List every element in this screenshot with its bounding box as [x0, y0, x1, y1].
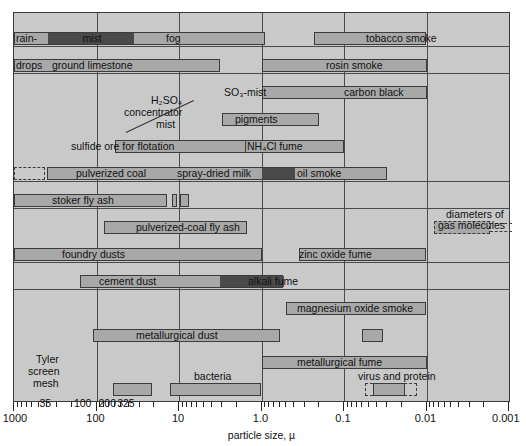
label-pulverized-coal: pulverized coal: [76, 168, 146, 179]
axis-minor-tick: [17, 402, 18, 407]
label-bacteria: bacteria: [194, 371, 231, 382]
axis-tick-0.1: [343, 402, 344, 411]
axis-minor-tick: [114, 402, 115, 407]
axis-minor-tick: [444, 402, 445, 407]
axis-tick-1: [261, 402, 262, 411]
label-foundry-dusts: foundry dusts: [62, 249, 125, 260]
label-fog: fog: [166, 33, 181, 44]
axis-minor-tick: [221, 402, 222, 407]
label-pigments: pigments: [235, 114, 278, 125]
axis-minor-tick: [196, 402, 197, 407]
label-alkali-fume: alkali fume: [248, 276, 298, 287]
axis-minor-tick: [120, 402, 121, 407]
axis-minor-tick: [458, 402, 459, 407]
label-metallurgical-dust: metallurgical dust: [136, 330, 218, 341]
axis-minor-tick: [351, 402, 352, 407]
x-axis: 1000100101.00.10.010.001 particle size, …: [13, 402, 510, 446]
rule: [14, 181, 509, 182]
axis-minor-tick: [128, 402, 129, 407]
axis-minor-tick: [46, 402, 47, 407]
axis-label-0.001: 0.001: [492, 412, 520, 424]
label-h2so4-line3: mist: [156, 119, 175, 130]
axis-minor-tick: [368, 402, 369, 407]
label-spray-dried-milk: spray-dried milk: [177, 168, 251, 179]
axis-minor-tick: [361, 402, 362, 407]
label-nh4cl-fume: NH₄Cl fume: [247, 141, 303, 152]
axis-minor-tick: [376, 402, 377, 407]
axis-minor-tick: [264, 402, 265, 407]
axis-minor-tick: [139, 402, 140, 407]
axis-minor-tick: [56, 402, 57, 407]
axis-minor-tick: [469, 402, 470, 407]
label-virus-and-protein: virus and protein: [358, 371, 436, 382]
label-mist: mist: [82, 33, 101, 44]
axis-label-100: 100: [86, 412, 104, 424]
particle-size-chart: rain-mistfogtobacco smokedropsground lim…: [0, 0, 526, 446]
axis-minor-tick: [153, 402, 154, 407]
axis-minor-tick: [347, 402, 348, 407]
label-so3-mist: SO₃-mist: [224, 87, 266, 98]
bar-metallurgical-small: [362, 329, 382, 342]
bar-stoker-fly-ash-c: [180, 194, 188, 207]
axis-minor-tick: [293, 402, 294, 407]
axis-title: particle size, µ: [13, 429, 510, 441]
axis-tick-0.001: [508, 402, 509, 411]
label-tyler-line2: screen: [28, 366, 60, 377]
bar-bacteria: [170, 383, 262, 396]
label-magnesium-oxide-smoke: magnesium oxide smoke: [297, 303, 413, 314]
axis-minor-tick: [356, 402, 357, 407]
axis-minor-tick: [203, 402, 204, 407]
axis-minor-tick: [26, 402, 27, 407]
label-gas-molecules-line2: gas molecules: [438, 220, 505, 231]
axis-label-1000: 1000: [3, 412, 27, 424]
axis-minor-tick: [318, 402, 319, 407]
axis-minor-tick: [38, 402, 39, 407]
label-tyler-line1: Tyler: [36, 354, 59, 365]
axis-minor-tick: [304, 402, 305, 407]
label-stoker-fly-ash: stoker fly ash: [52, 195, 114, 206]
label-drops: drops: [16, 60, 42, 71]
label-oil-smoke: oil smoke: [297, 168, 341, 179]
label-rosin-smoke: rosin smoke: [326, 60, 383, 71]
axis-tick-0.01: [426, 402, 427, 411]
label-sulfide-ore: sulfide ore for flotation: [71, 141, 174, 152]
label-pulverized-coal-fly-ash: pulverized-coal fly ash: [136, 222, 240, 233]
axis-minor-tick: [433, 402, 434, 407]
axis-minor-tick: [99, 402, 100, 407]
axis-minor-tick: [182, 402, 183, 407]
axis-minor-tick: [236, 402, 237, 407]
axis-minor-tick: [386, 402, 387, 407]
label-tyler-line3: mesh: [33, 378, 59, 389]
axis-minor-tick: [273, 402, 274, 407]
bar-segment-dark: [262, 168, 295, 179]
label-cement-dust: cement dust: [99, 276, 156, 287]
axis-label-0.1: 0.1: [335, 412, 350, 424]
axis-label-1: 1.0: [253, 412, 268, 424]
axis-label-10: 10: [172, 412, 184, 424]
label-ground-limestone: ground limestone: [52, 60, 133, 71]
axis-minor-tick: [21, 402, 22, 407]
axis-minor-tick: [279, 402, 280, 407]
plot-area: rain-mistfogtobacco smokedropsground lim…: [13, 12, 510, 402]
rule: [14, 46, 509, 47]
rule: [14, 73, 509, 74]
rule: [14, 208, 509, 209]
axis-tick-10: [178, 402, 179, 411]
axis-minor-tick: [186, 402, 187, 407]
gas-molecule-extension-line: [490, 231, 512, 232]
bar-rain-mist-fog: [14, 32, 265, 45]
rule: [14, 289, 509, 290]
label-h2so4-line1: H₂SO₄: [151, 95, 182, 106]
axis-minor-tick: [71, 402, 72, 407]
bar-pulverized-coal-stub: [14, 167, 45, 180]
label-metallurgical-fume: metallurgical fume: [297, 357, 382, 368]
bar-screen-mesh-range: [113, 383, 152, 396]
axis-minor-tick: [401, 402, 402, 407]
bar-virus-and-protein-inner: [373, 383, 406, 396]
axis-tick-1000: [13, 402, 14, 411]
bar-stoker-fly-ash-b: [172, 194, 177, 207]
axis-minor-tick: [108, 402, 109, 407]
axis-minor-tick: [211, 402, 212, 407]
axis-minor-tick: [191, 402, 192, 407]
axis-minor-tick: [450, 402, 451, 407]
